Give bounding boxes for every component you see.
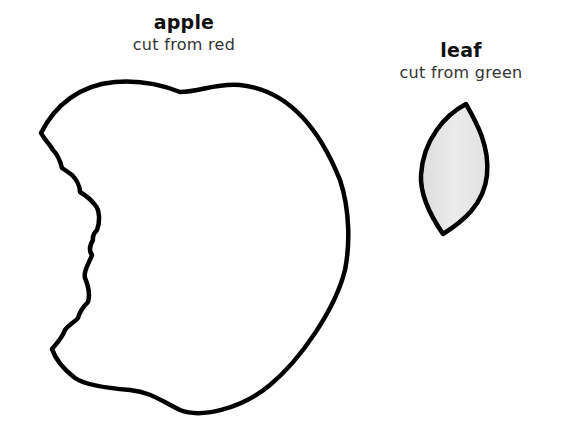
apple-outline-icon [41, 81, 348, 412]
leaf-outline-icon [421, 104, 487, 234]
cutout-template [0, 0, 565, 439]
